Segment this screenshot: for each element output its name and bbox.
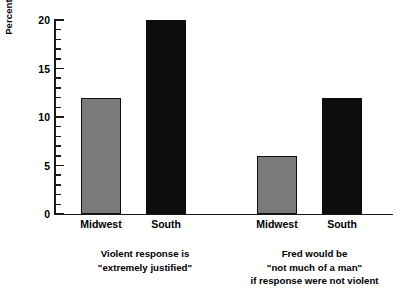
bar-chart: Percent Who Agree with Statement 2015105… (0, 0, 410, 289)
group-caption-2-line-2: "not much of a man" (222, 261, 407, 275)
group-caption-2-line-1: Fred would be (222, 247, 407, 261)
y-tick-label: 0 (24, 209, 50, 219)
y-tick-label: 20 (24, 15, 50, 25)
y-tick-label-text: 20 (26, 15, 50, 25)
category-label-south-group-2: South (302, 218, 382, 231)
group-caption-2: Fred would be "not much of a man" if res… (222, 247, 407, 288)
y-axis-title-container: Percent Who Agree with Statement (0, 18, 16, 218)
y-tick-label-text: 15 (26, 64, 50, 74)
y-tick-label: 10 (24, 112, 50, 122)
bars-layer (55, 20, 393, 214)
bar-south-group-1 (146, 20, 186, 214)
bar-south-group-2 (322, 98, 362, 214)
y-tick-label-text: 0 (26, 209, 50, 219)
y-tick-label-text: 5 (26, 161, 50, 171)
category-label-south-group-1: South (126, 218, 206, 231)
y-tick-label: 15 (24, 64, 50, 74)
bar-midwest-group-1 (81, 98, 121, 214)
y-tick-label-text: 10 (26, 112, 50, 122)
bar-midwest-group-2 (257, 156, 297, 214)
group-caption-1-line-1: Violent response is (55, 247, 235, 261)
group-caption-2-line-3: if response were not violent (222, 274, 407, 288)
group-caption-1-line-2: "extremely justified" (55, 261, 235, 275)
group-caption-1: Violent response is "extremely justified… (55, 247, 235, 274)
y-tick-label: 5 (24, 161, 50, 171)
y-axis-title: Percent Who Agree with Statement (2, 0, 16, 52)
